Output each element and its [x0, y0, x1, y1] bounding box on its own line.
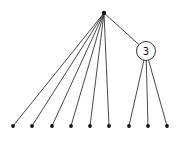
- leaf-node: [165, 124, 169, 128]
- leaf-node: [107, 124, 111, 128]
- leaf-node: [88, 124, 92, 128]
- tree-diagram-canvas: 3: [0, 0, 181, 142]
- edge-cluster-to-leaf: [149, 60, 167, 126]
- edges: [13, 13, 167, 126]
- leaf-node: [69, 124, 73, 128]
- edge-cluster-to-leaf: [129, 60, 144, 126]
- edge-root-to-leaf: [52, 13, 104, 126]
- leaf-node: [146, 124, 150, 128]
- nodes: [11, 11, 169, 128]
- leaf-node: [127, 124, 131, 128]
- cluster-node: 3: [137, 42, 156, 61]
- leaf-node: [50, 124, 54, 128]
- edge-root-to-leaf: [13, 13, 104, 126]
- leaf-node: [11, 124, 15, 128]
- edge-root-to-cluster: [104, 13, 139, 45]
- edge-root-to-leaf: [104, 13, 109, 126]
- cluster-count-label: 3: [143, 46, 149, 57]
- leaf-node: [30, 124, 34, 128]
- root-node: [102, 11, 106, 15]
- edge-root-to-leaf: [32, 13, 104, 126]
- edge-root-to-leaf: [90, 13, 104, 126]
- tree-diagram: 3: [0, 0, 181, 142]
- edge-cluster-to-leaf: [146, 60, 148, 126]
- edge-root-to-leaf: [71, 13, 104, 126]
